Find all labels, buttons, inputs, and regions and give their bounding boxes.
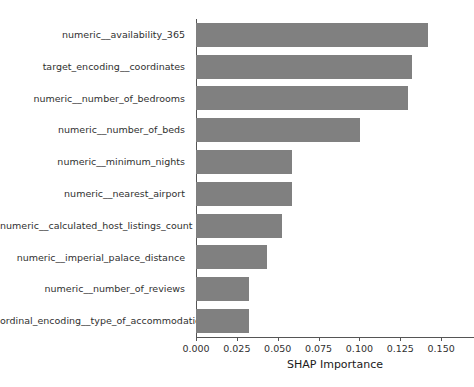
bar-row — [196, 146, 457, 178]
y-axis-tick-labels: numeric__availability_365target_encoding… — [0, 19, 191, 337]
y-tick-label: numeric__calculated_host_listings_count — [0, 220, 185, 232]
x-tick-mark — [196, 337, 197, 341]
y-tick-label: target_encoding__coordinates — [0, 61, 185, 73]
bar-row — [196, 305, 457, 337]
bar-row — [196, 178, 457, 210]
y-tick-label: numeric__availability_365 — [0, 29, 185, 41]
plot-area — [196, 19, 457, 337]
x-tick-label: 0.075 — [305, 343, 332, 354]
bar-row — [196, 242, 457, 274]
x-tick-label: 0.150 — [428, 343, 455, 354]
y-tick-label: numeric__number_of_beds — [0, 124, 185, 136]
y-tick-label: ordinal_encoding__type_of_accommodation — [0, 315, 185, 327]
x-tick-mark — [319, 337, 320, 341]
y-tick-label: numeric__number_of_reviews — [0, 283, 185, 295]
bar — [196, 309, 249, 333]
x-tick-mark — [278, 337, 279, 341]
bar — [196, 150, 292, 174]
y-tick-label: numeric__minimum_nights — [0, 156, 185, 168]
x-tick-mark — [237, 337, 238, 341]
bar — [196, 55, 412, 79]
bar-row — [196, 273, 457, 305]
x-tick-label: 0.125 — [387, 343, 414, 354]
x-tick-label: 0.100 — [346, 343, 373, 354]
y-tick-label: numeric__nearest_airport — [0, 188, 185, 200]
x-tick-label: 0.000 — [182, 343, 209, 354]
bar — [196, 182, 292, 206]
bar-row — [196, 83, 457, 115]
bar-row — [196, 114, 457, 146]
bar — [196, 214, 282, 238]
x-tick-mark — [441, 337, 442, 341]
bar-row — [196, 19, 457, 51]
shap-importance-chart: numeric__availability_365target_encoding… — [0, 0, 474, 387]
x-tick-label: 0.050 — [264, 343, 291, 354]
bar-row — [196, 51, 457, 83]
bar — [196, 245, 267, 269]
x-tick-mark — [359, 337, 360, 341]
y-tick-label: numeric__number_of_bedrooms — [0, 93, 185, 105]
x-tick-mark — [400, 337, 401, 341]
bar — [196, 86, 408, 110]
bar-row — [196, 210, 457, 242]
x-tick-label: 0.025 — [223, 343, 250, 354]
bar — [196, 23, 428, 47]
bar — [196, 277, 249, 301]
bar — [196, 118, 360, 142]
x-axis-title: SHAP Importance — [196, 358, 474, 371]
y-tick-label: numeric__imperial_palace_distance — [0, 252, 185, 264]
